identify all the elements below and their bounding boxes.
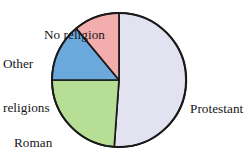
pie-label-other-religions-line1: Other: [3, 57, 50, 72]
pie-slice-protestant[interactable]: [114, 13, 186, 147]
pie-slice-roman-catholic[interactable]: [52, 80, 119, 147]
pie-chart-figure: No religion Other religions Roman Cathol…: [0, 0, 251, 153]
pie-label-roman-catholic: Roman Catholic: [14, 107, 59, 153]
pie-label-protestant: Protestant: [190, 73, 243, 146]
pie-label-protestant-text: Protestant: [190, 102, 243, 117]
chart-plot-area: No religion Other religions Roman Cathol…: [0, 0, 251, 153]
pie-label-no-religion-text: No religion: [44, 28, 105, 43]
pie-label-no-religion: No religion: [44, 0, 105, 72]
pie-label-roman-catholic-line1: Roman: [14, 136, 59, 151]
